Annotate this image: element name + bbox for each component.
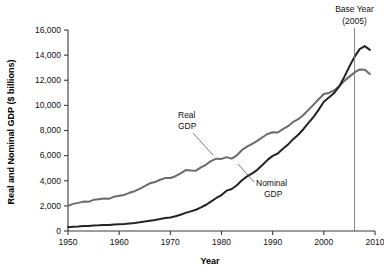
- series-line-nominal-gdp: [68, 46, 370, 227]
- x-axis-tick-labels: 1950196019701980199020002010: [59, 237, 384, 247]
- y-tick-label: 4,000: [40, 176, 62, 186]
- y-tick-label: 0: [56, 226, 61, 236]
- x-tick-label: 2000: [314, 237, 333, 247]
- x-tick-label: 2010: [366, 237, 384, 247]
- x-tick-label: 1990: [263, 237, 282, 247]
- nominal-gdp-label-line2: GDP: [264, 189, 283, 199]
- gdp-chart: 02,0004,0006,0008,00010,00012,00014,0001…: [0, 0, 384, 272]
- x-tick-label: 1960: [110, 237, 129, 247]
- real-gdp-label-line2: GDP: [178, 121, 197, 131]
- series-line-real-gdp: [68, 69, 370, 205]
- nominal-gdp-label-line1: Nominal: [256, 178, 287, 188]
- x-tick-label: 1970: [161, 237, 180, 247]
- y-tick-label: 2,000: [40, 201, 62, 211]
- x-tick-label: 1980: [212, 237, 231, 247]
- x-axis-title: Year: [200, 256, 220, 266]
- y-axis-ticks: [64, 30, 68, 231]
- real-gdp-label-line1: Real: [178, 110, 196, 120]
- x-axis-ticks: [68, 231, 375, 235]
- x-axis: 1950196019701980199020002010: [59, 231, 384, 247]
- base-year-label-line1: Base Year: [335, 4, 374, 14]
- y-tick-label: 12,000: [35, 75, 61, 85]
- y-tick-label: 16,000: [35, 25, 61, 35]
- y-tick-label: 10,000: [35, 100, 61, 110]
- base-year-label-line2: (2005): [342, 16, 367, 26]
- plot-series: [68, 46, 370, 227]
- nominal-gdp-annotation: Nominal GDP: [238, 164, 287, 199]
- real-gdp-leader-line: [193, 133, 213, 155]
- x-tick-label: 1950: [59, 237, 78, 247]
- y-tick-label: 14,000: [35, 50, 61, 60]
- y-axis-title: Real and Nominal GDP ($ billions): [6, 60, 16, 205]
- y-tick-label: 8,000: [40, 125, 62, 135]
- chart-canvas: 02,0004,0006,0008,00010,00012,00014,0001…: [0, 0, 384, 272]
- base-year-marker: Base Year (2005): [335, 4, 374, 231]
- y-axis-tick-labels: 02,0004,0006,0008,00010,00012,00014,0001…: [35, 25, 61, 236]
- real-gdp-annotation: Real GDP: [178, 110, 213, 155]
- y-tick-label: 6,000: [40, 150, 62, 160]
- y-axis: 02,0004,0006,0008,00010,00012,00014,0001…: [35, 25, 68, 236]
